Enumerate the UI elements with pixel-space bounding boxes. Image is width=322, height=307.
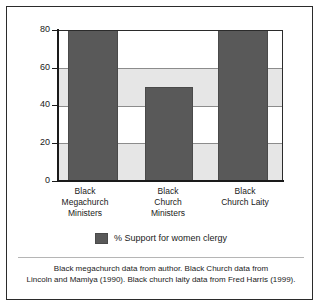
y-axis-label-40: 40: [10, 100, 50, 109]
bar-black-megachurch-ministers[interactable]: [68, 30, 118, 181]
plot-area: [58, 30, 283, 181]
legend-label-support-women-clergy: % Support for women clergy: [114, 233, 227, 244]
x-label-line: Black: [158, 186, 179, 196]
bar-black-church-ministers[interactable]: [145, 87, 193, 181]
x-label-line: Ministers: [68, 208, 102, 218]
x-axis-label-black-church-laity: Black Church Laity: [203, 186, 287, 208]
x-label-line: Black: [235, 186, 256, 196]
x-label-line: Megachurch: [62, 197, 109, 207]
x-label-line: Church: [154, 197, 181, 207]
x-label-line: Ministers: [151, 208, 185, 218]
plot-area-wrapper: [58, 30, 283, 181]
x-axis-label-black-church-ministers: Black Church Ministers: [128, 186, 208, 219]
x-label-line: Church Laity: [221, 197, 269, 207]
figure-caption: Black megachurch data from author. Black…: [14, 263, 308, 285]
x-label-line: Black: [75, 186, 96, 196]
y-axis-label-60: 60: [10, 63, 50, 72]
caption-line-2: Lincoln and Mamiya (1990). Black church …: [14, 274, 308, 285]
x-axis-spine: [57, 180, 284, 182]
figure: 80 60 40 20 0 Black Megachurch Ministers: [0, 0, 322, 307]
bar-black-church-laity[interactable]: [218, 30, 268, 181]
legend-swatch-icon: [95, 233, 108, 244]
y-axis-spine: [57, 29, 59, 182]
caption-line-1: Black megachurch data from author. Black…: [14, 263, 308, 274]
y-axis-label-20: 20: [10, 138, 50, 147]
legend: % Support for women clergy: [0, 233, 322, 244]
x-axis-label-black-megachurch-ministers: Black Megachurch Ministers: [43, 186, 127, 219]
y-axis-label-80: 80: [10, 25, 50, 34]
caption-divider: [18, 257, 304, 258]
y-axis-label-0: 0: [10, 176, 50, 185]
